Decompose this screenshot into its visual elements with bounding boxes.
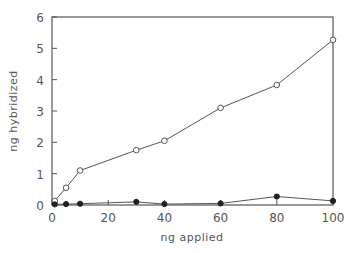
open-circle-marker	[162, 138, 168, 144]
filled-circle-marker	[274, 194, 279, 199]
y-tick-label: 0	[36, 199, 44, 213]
filled-circle-marker	[162, 201, 167, 206]
y-tick-label: 4	[36, 74, 44, 88]
data-series	[52, 37, 336, 207]
y-tick-label: 1	[36, 168, 44, 182]
open-circle-marker	[63, 185, 69, 191]
y-tick-label: 2	[36, 136, 44, 150]
line-chart: 0123456 020406080100 ng applied ng hybri…	[0, 0, 351, 253]
x-tick-label: 60	[213, 211, 228, 225]
y-tick-label: 5	[36, 42, 44, 56]
y-axis-label: ng hybridized	[7, 70, 20, 152]
y-axis-ticks: 0123456	[36, 11, 57, 213]
filled-circle-marker	[218, 201, 223, 206]
filled-circle-marker	[63, 201, 68, 206]
series-line-1	[55, 197, 333, 205]
open-circle-marker	[134, 147, 140, 153]
open-circle-marker	[330, 37, 336, 43]
open-circle-marker	[274, 82, 280, 88]
filled-circle-marker	[78, 201, 83, 206]
filled-circle-marker	[52, 202, 57, 207]
x-tick-label: 40	[157, 211, 172, 225]
filled-circle-marker	[330, 198, 335, 203]
series-line-0	[55, 40, 333, 201]
y-tick-label: 6	[36, 11, 44, 25]
x-tick-label: 100	[322, 211, 345, 225]
y-tick-label: 3	[36, 105, 44, 119]
filled-circle-marker	[134, 199, 139, 204]
open-circle-marker	[77, 168, 83, 174]
plot-frame	[52, 17, 333, 205]
x-tick-label: 80	[269, 211, 284, 225]
x-tick-label: 0	[48, 211, 56, 225]
open-circle-marker	[218, 105, 224, 111]
x-tick-label: 20	[101, 211, 116, 225]
x-axis-label: ng applied	[160, 231, 223, 244]
